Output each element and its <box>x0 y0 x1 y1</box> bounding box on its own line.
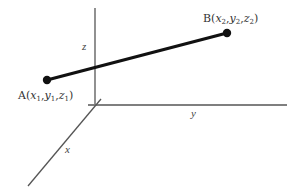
coordinate-diagram: z y x A(x1,y1,z1) B(x2,y2,z2) <box>0 0 303 196</box>
point-a-prefix: A( <box>17 89 30 102</box>
point-b-prefix: B( <box>203 12 215 25</box>
point-a-label: A(x1,y1,z1) <box>17 89 73 103</box>
y-axis-label: y <box>190 107 196 119</box>
point-b-label: B(x2,y2,z2) <box>203 12 258 26</box>
z-axis-label: z <box>81 40 87 52</box>
point-b-suffix: ) <box>254 12 258 25</box>
point-b <box>223 29 231 37</box>
point-a-suffix: ) <box>69 89 73 102</box>
line-segment-ab <box>47 33 227 80</box>
x-axis-label: x <box>64 143 70 155</box>
point-a <box>43 76 51 84</box>
